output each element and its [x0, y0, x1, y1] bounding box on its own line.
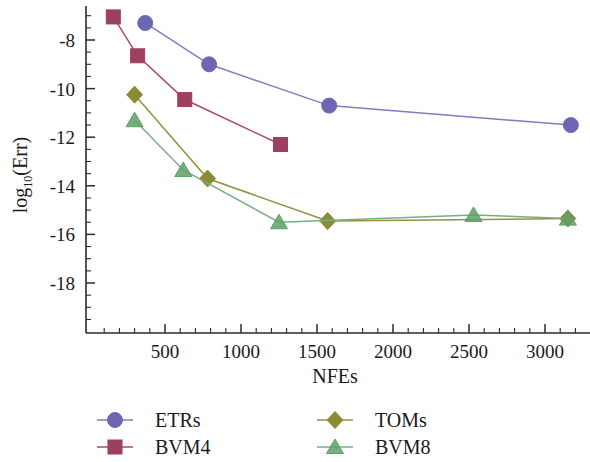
legend-swatch-marker	[108, 440, 122, 454]
x-axis-label: NFEs	[312, 365, 358, 387]
x-tick-label: 1500	[298, 341, 336, 362]
data-point-marker	[322, 98, 337, 113]
legend-item-label: BVM8	[375, 436, 431, 458]
data-point-marker	[178, 93, 192, 107]
data-point-marker	[138, 15, 153, 30]
x-axis-ticks	[104, 324, 590, 333]
chart-legend: ETRsBVM4TOMsBVM8	[97, 409, 431, 458]
legend-item-bvm8[interactable]: BVM8	[317, 436, 431, 458]
series-line	[145, 23, 571, 125]
y-axis-tick-labels: -8-10-12-14-16-18	[50, 30, 76, 294]
y-tick-label: -18	[50, 273, 75, 294]
series-bvm4	[106, 10, 287, 152]
chart-figure: 50010001500200025003000 -8-10-12-14-16-1…	[0, 0, 590, 462]
series-line	[135, 95, 568, 221]
x-tick-label: 2000	[374, 341, 412, 362]
y-axis-label: log10(Err)	[9, 137, 35, 213]
data-point-marker	[126, 112, 143, 127]
legend-swatch-marker	[327, 439, 344, 454]
legend-item-label: TOMs	[375, 409, 427, 431]
data-point-marker	[465, 207, 482, 222]
x-axis-tick-labels: 50010001500200025003000	[151, 341, 564, 362]
chart-axes	[86, 6, 590, 333]
legend-swatch-marker	[327, 412, 343, 429]
legend-item-toms[interactable]: TOMs	[317, 409, 427, 431]
x-tick-label: 2500	[450, 341, 488, 362]
series-bvm8	[126, 112, 576, 229]
legend-swatch-marker	[108, 413, 123, 428]
series-line	[135, 120, 568, 222]
data-point-marker	[131, 49, 145, 63]
svg-text:log10(Err): log10(Err)	[9, 137, 35, 213]
data-point-marker	[106, 10, 120, 24]
y-axis-ticks	[86, 16, 95, 320]
line-chart: 50010001500200025003000 -8-10-12-14-16-1…	[0, 0, 590, 462]
y-tick-label: -8	[59, 30, 75, 51]
data-series-layer	[106, 10, 578, 230]
series-etrs	[138, 15, 579, 132]
y-tick-label: -14	[50, 176, 76, 197]
legend-item-etrs[interactable]: ETRs	[97, 409, 201, 431]
y-tick-label: -10	[50, 79, 75, 100]
legend-item-bvm4[interactable]: BVM4	[97, 436, 211, 458]
data-point-marker	[563, 118, 578, 133]
y-axis-label-base: log	[9, 188, 32, 214]
legend-item-label: BVM4	[155, 436, 211, 458]
legend-item-label: ETRs	[155, 409, 201, 431]
x-tick-label: 3000	[526, 341, 564, 362]
x-tick-label: 500	[151, 341, 180, 362]
data-point-marker	[274, 137, 288, 151]
y-tick-label: -16	[50, 224, 75, 245]
data-point-marker	[202, 57, 217, 72]
y-axis-label-subscript: 10	[21, 176, 35, 188]
x-tick-label: 1000	[222, 341, 260, 362]
y-axis-label-arg: (Err)	[9, 137, 32, 176]
y-tick-label: -12	[50, 127, 75, 148]
